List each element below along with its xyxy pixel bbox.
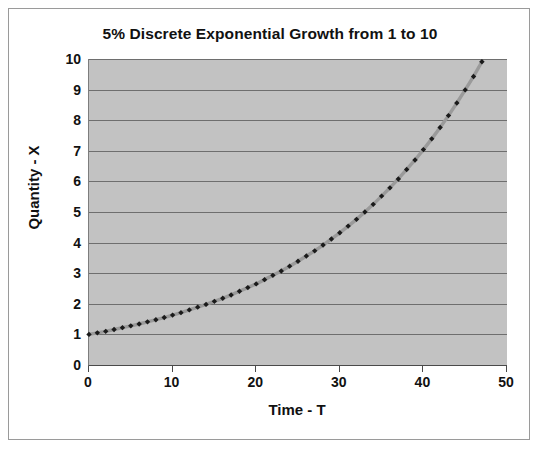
x-axis-tick-labels: 01020304050 — [88, 375, 506, 395]
x-tick-label: 40 — [402, 375, 442, 389]
y-tick-label: 1 — [51, 327, 81, 341]
x-tick-mark — [88, 366, 89, 372]
y-tick-label: 4 — [51, 236, 81, 250]
chart-title: 5% Discrete Exponential Growth from 1 to… — [9, 25, 531, 43]
x-tick-mark — [172, 366, 173, 372]
x-axis-tick-marks — [88, 366, 507, 373]
series-line — [89, 62, 482, 335]
x-tick-label: 0 — [68, 375, 108, 389]
x-axis-title: Time - T — [88, 401, 506, 418]
x-tick-label: 50 — [486, 375, 526, 389]
chart-frame: 5% Discrete Exponential Growth from 1 to… — [8, 8, 530, 440]
x-tick-label: 30 — [319, 375, 359, 389]
y-tick-label: 5 — [51, 205, 81, 219]
y-tick-label: 7 — [51, 144, 81, 158]
y-tick-label: 10 — [51, 52, 81, 66]
x-tick-label: 10 — [152, 375, 192, 389]
x-tick-mark — [422, 366, 423, 372]
y-tick-label: 6 — [51, 174, 81, 188]
y-axis-tick-labels: 012345678910 — [47, 59, 81, 365]
y-tick-label: 9 — [51, 83, 81, 97]
x-tick-mark — [506, 366, 507, 372]
y-axis-title: Quantity - X — [25, 88, 42, 288]
x-tick-label: 20 — [235, 375, 275, 389]
y-tick-label: 2 — [51, 297, 81, 311]
x-tick-mark — [339, 366, 340, 372]
y-tick-label: 8 — [51, 113, 81, 127]
y-tick-label: 0 — [51, 358, 81, 372]
y-tick-label: 3 — [51, 266, 81, 280]
x-tick-mark — [255, 366, 256, 372]
plot-area — [88, 59, 507, 366]
data-series-line — [89, 59, 507, 365]
